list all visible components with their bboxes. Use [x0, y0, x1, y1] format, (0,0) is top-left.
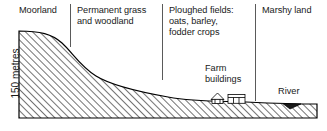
river-label: River	[278, 86, 299, 97]
cross-section-canvas	[0, 0, 327, 131]
farm-barn-icon	[228, 95, 245, 104]
y-axis-label: 150 metres	[10, 35, 21, 113]
zone-label-marshy-land: Marshy land	[262, 5, 312, 16]
landscape-cross-section-diagram: 150 metres Moorland Permanent grass and …	[0, 0, 327, 131]
farm-buildings-label: Farm buildings	[205, 63, 241, 85]
zone-label-moorland: Moorland	[19, 5, 57, 16]
zone-label-ploughed-fields: Ploughed fields: oats, barley, fodder cr…	[169, 5, 234, 39]
farm-house-icon	[211, 93, 224, 104]
zone-label-permanent-grass-and-woodland: Permanent grass and woodland	[77, 5, 146, 27]
